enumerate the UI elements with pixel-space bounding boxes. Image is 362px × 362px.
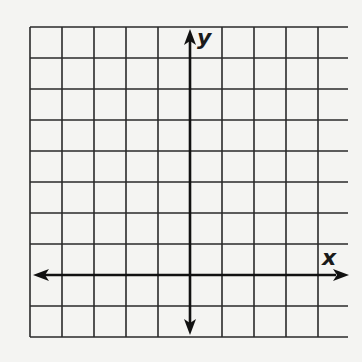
coordinate-grid bbox=[0, 0, 362, 362]
x-axis-label: x bbox=[322, 247, 336, 269]
y-axis-label: y bbox=[197, 27, 211, 49]
